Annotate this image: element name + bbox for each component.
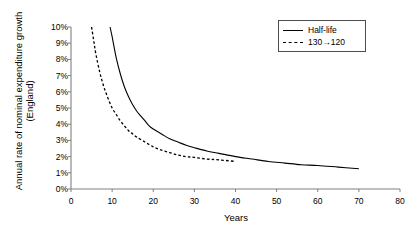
legend-line-swatch bbox=[283, 25, 303, 35]
x-axis-tick-label: 30 bbox=[190, 196, 199, 206]
chart-figure: Annual rate of nominal expenditure growt… bbox=[0, 0, 420, 240]
x-axis-tick-label: 10 bbox=[107, 196, 116, 206]
legend-item-label: Half-life bbox=[308, 25, 337, 35]
series-line bbox=[92, 27, 236, 161]
x-axis-tick-label: 80 bbox=[395, 196, 404, 206]
x-axis-tick-label: 50 bbox=[272, 196, 281, 206]
x-axis-tick-label: 20 bbox=[149, 196, 158, 206]
legend-swatch-bar bbox=[283, 42, 303, 43]
chart-legend: Half-life130→120 bbox=[278, 20, 366, 52]
x-axis-tick-label: 40 bbox=[231, 196, 240, 206]
x-axis-tick-label: 60 bbox=[313, 196, 322, 206]
x-axis-title: Years bbox=[71, 212, 401, 223]
legend-item: Half-life bbox=[283, 24, 360, 36]
x-axis-tick-labels: 01020304050607080 bbox=[0, 196, 420, 210]
legend-item: 130→120 bbox=[283, 36, 360, 48]
x-axis-tick-label: 70 bbox=[354, 196, 363, 206]
legend-item-label: 130→120 bbox=[308, 37, 345, 47]
x-axis-tick-label: 0 bbox=[69, 196, 74, 206]
legend-line-swatch bbox=[283, 37, 303, 47]
legend-swatch-bar bbox=[283, 30, 303, 31]
